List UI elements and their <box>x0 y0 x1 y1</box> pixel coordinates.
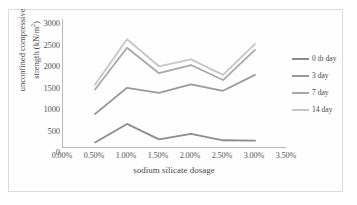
chart-figure: unconfined compressive strength (kN/m2) … <box>0 0 357 205</box>
y-axis-tick-label: 1500 <box>43 84 60 93</box>
chart-legend: 0 th day3 day7 day14 day <box>292 50 352 118</box>
series-line <box>95 75 255 114</box>
y-axis-tick-label: 2500 <box>43 41 60 50</box>
x-axis-tick-label: 0.50% <box>84 151 105 161</box>
legend-item[interactable]: 0 th day <box>292 50 352 67</box>
legend-item[interactable]: 7 day <box>292 84 352 101</box>
legend-swatch-icon <box>292 109 309 111</box>
legend-item-label: 7 day <box>312 88 329 97</box>
series-line <box>95 48 255 90</box>
plot-area <box>62 19 286 148</box>
y-axis-tick-labels: 300025002000150010005000 <box>18 12 60 155</box>
legend-swatch-icon <box>292 58 309 60</box>
legend-item[interactable]: 14 day <box>292 101 352 118</box>
series-line <box>95 124 255 142</box>
legend-item-label: 3 day <box>312 71 329 80</box>
x-axis-tick-label: 2.50% <box>212 151 233 161</box>
x-axis-tick-label: 3.50% <box>276 151 297 161</box>
x-axis-tick-label: 1.00% <box>116 151 137 161</box>
x-axis-tick-label: 3.00% <box>244 151 265 161</box>
legend-item-label: 0 th day <box>312 54 336 63</box>
x-axis-tick-label: 2.00% <box>180 151 201 161</box>
series-line <box>95 39 255 85</box>
y-axis-tick-label: 2000 <box>43 62 60 71</box>
legend-swatch-icon <box>292 92 309 94</box>
legend-item[interactable]: 3 day <box>292 67 352 84</box>
x-axis-tick-label: 0.00% <box>52 151 73 161</box>
y-axis-tick-label: 1000 <box>43 105 60 114</box>
y-axis-tick-label: 500 <box>48 127 60 136</box>
series-lines <box>63 19 287 148</box>
x-axis-title: sodium silicate dosage <box>62 165 286 175</box>
x-axis-tick-labels: 0.00%0.50%1.00%1.50%2.00%2.50%3.00%3.50% <box>62 151 286 163</box>
y-axis-tick-label: 3000 <box>43 19 60 28</box>
legend-swatch-icon <box>292 75 309 77</box>
x-axis-tick-label: 1.50% <box>148 151 169 161</box>
legend-item-label: 14 day <box>312 105 332 114</box>
